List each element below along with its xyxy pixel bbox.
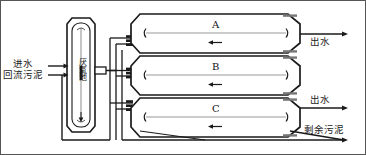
tank-outlet-stub: [95, 67, 106, 74]
influent-label: 进水: [13, 59, 33, 69]
reactor-b-label: B: [212, 62, 219, 73]
return-sludge-label: 回流污泥: [3, 70, 43, 80]
diagram-canvas: 进水 回流污泥 厌氧池 A B C 出水 出水 剩余污泥: [0, 0, 366, 155]
reactor-a-label: A: [212, 20, 219, 31]
effluent-bottom-label: 出水: [310, 95, 330, 105]
reactor-c-label: C: [212, 104, 220, 115]
anaerobic-tank-label: 厌氧池: [77, 58, 85, 81]
valve-c-1: [126, 100, 133, 103]
effluent-top-label: 出水: [310, 37, 330, 47]
excess-sludge-label: 剩余污泥: [304, 125, 344, 135]
